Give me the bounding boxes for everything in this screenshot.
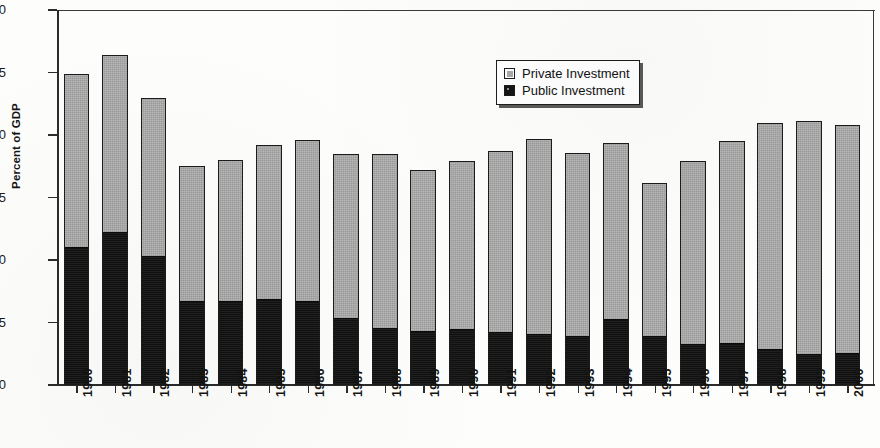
y-axis-line [57, 10, 59, 385]
legend-label-private: Private Investment [522, 67, 630, 80]
x-tick-label-1980: 1980 [81, 368, 95, 397]
bar-segment-private [373, 155, 397, 329]
bar-segment-private [103, 56, 127, 233]
x-tick-label-1986: 1986 [313, 368, 327, 397]
x-tick [153, 385, 154, 393]
y-tick [48, 197, 57, 198]
bar-1990[interactable] [449, 161, 475, 385]
x-tick-label-1993: 1993 [583, 368, 597, 397]
x-tick [192, 385, 193, 393]
black-square-icon [504, 85, 515, 96]
bar-segment-private [681, 162, 705, 345]
x-tick-label-1987: 1987 [351, 368, 365, 397]
x-tick [655, 385, 656, 393]
x-tick [693, 385, 694, 393]
y-tick [48, 9, 57, 10]
x-tick [231, 385, 232, 393]
bar-1998[interactable] [757, 123, 783, 386]
x-tick [770, 385, 771, 393]
x-tick [423, 385, 424, 393]
x-tick [500, 385, 501, 393]
bar-segment-private [643, 184, 667, 337]
y-tick-label: 0 [0, 378, 6, 391]
x-tick-label-1981: 1981 [120, 368, 134, 397]
x-tick-label-1992: 1992 [544, 368, 558, 397]
y-tick [48, 134, 57, 135]
x-tick-label-1995: 1995 [660, 368, 674, 397]
x-tick-label-1994: 1994 [621, 368, 635, 397]
bar-1986[interactable] [295, 140, 321, 385]
x-tick-label-2000: 2000 [852, 368, 866, 397]
legend-item-public[interactable]: Public Investment [504, 82, 630, 99]
bar-segment-private [411, 171, 435, 332]
bar-segment-private [758, 124, 782, 351]
bar-segment-private [65, 75, 89, 248]
y-tick [48, 384, 57, 385]
stacked-bar-chart: Percent of GDP 051015202530 198019811982… [0, 0, 880, 448]
x-tick [76, 385, 77, 393]
bar-segment-private [604, 144, 628, 321]
y-tick [48, 322, 57, 323]
bar-1995[interactable] [642, 183, 668, 386]
bar-1993[interactable] [565, 153, 591, 386]
y-tick [48, 72, 57, 73]
bar-segment-private [334, 155, 358, 319]
x-tick-label-1997: 1997 [737, 368, 751, 397]
bar-1994[interactable] [603, 143, 629, 386]
bar-1982[interactable] [141, 98, 167, 386]
bar-segment-private [566, 154, 590, 337]
bar-1991[interactable] [488, 151, 514, 385]
x-tick-label-1989: 1989 [428, 368, 442, 397]
bar-segment-public [103, 232, 127, 384]
bar-1984[interactable] [218, 160, 244, 385]
bar-1999[interactable] [796, 121, 822, 385]
bar-segment-private [296, 141, 320, 302]
x-tick-label-1990: 1990 [467, 368, 481, 397]
bar-1996[interactable] [680, 161, 706, 385]
y-axis-title: Percent of GDP [10, 86, 22, 206]
y-tick [48, 259, 57, 260]
x-tick [578, 385, 579, 393]
bar-1985[interactable] [256, 145, 282, 385]
bar-1988[interactable] [372, 154, 398, 385]
bar-segment-private [450, 162, 474, 330]
y-tick-label: 30 [0, 3, 6, 16]
x-tick [346, 385, 347, 393]
y-tick-label: 25 [0, 66, 6, 79]
bar-1983[interactable] [179, 166, 205, 385]
x-tick-label-1982: 1982 [158, 368, 172, 397]
bar-segment-private [836, 126, 860, 354]
legend-label-public: Public Investment [522, 84, 625, 97]
x-tick-label-1998: 1998 [775, 368, 789, 397]
bar-1981[interactable] [102, 55, 128, 385]
plot-frame-right [873, 10, 874, 385]
x-tick [269, 385, 270, 393]
y-tick-label: 10 [0, 253, 6, 266]
x-tick-label-1984: 1984 [236, 368, 250, 397]
x-tick-label-1996: 1996 [698, 368, 712, 397]
bar-segment-private [219, 161, 243, 302]
gray-square-icon [504, 68, 515, 79]
x-tick [809, 385, 810, 393]
bar-segment-private [797, 122, 821, 355]
bar-segment-public [142, 256, 166, 385]
y-tick-label: 5 [0, 316, 6, 329]
y-tick-label: 20 [0, 128, 6, 141]
bar-1989[interactable] [410, 170, 436, 385]
x-tick [539, 385, 540, 393]
bar-1997[interactable] [719, 141, 745, 385]
bar-segment-private [180, 167, 204, 301]
x-tick [616, 385, 617, 393]
x-tick [847, 385, 848, 393]
plot-area [57, 10, 875, 385]
plot-frame-top [57, 10, 875, 11]
bar-2000[interactable] [835, 125, 861, 385]
x-tick-label-1985: 1985 [274, 368, 288, 397]
bar-1980[interactable] [64, 74, 90, 385]
bar-1992[interactable] [526, 139, 552, 385]
x-tick [115, 385, 116, 393]
x-tick-label-1999: 1999 [814, 368, 828, 397]
bar-1987[interactable] [333, 154, 359, 385]
bar-segment-private [257, 146, 281, 300]
legend-item-private[interactable]: Private Investment [504, 65, 630, 82]
